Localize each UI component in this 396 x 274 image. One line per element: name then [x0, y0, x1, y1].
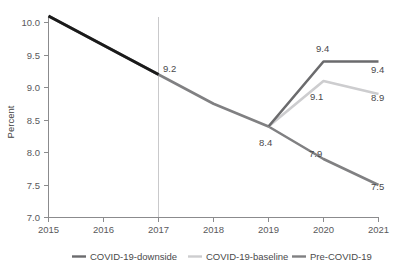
x-tick-label: 2020: [313, 224, 334, 235]
line-chart: 10.0 9.5 9.0 8.5 8.0 7.5 7.0 Percent 201…: [0, 0, 396, 274]
y-tick-label: 9.5: [27, 50, 40, 61]
series-line-covid-19-baseline: [269, 81, 379, 127]
y-axis-ticks: [44, 23, 49, 218]
legend-label: Pre-COVID-19: [310, 251, 372, 262]
y-tick-label: 7.0: [27, 212, 40, 223]
chart-canvas: 10.0 9.5 9.0 8.5 8.0 7.5 7.0 Percent 201…: [0, 0, 396, 274]
legend-label: COVID-19-baseline: [206, 251, 288, 262]
data-labels: 9.2 8.4 9.4 9.4 9.1 8.9 7.9 7.5: [163, 43, 384, 192]
x-tick-label: 2018: [203, 224, 224, 235]
legend-item-covid-19-baseline[interactable]: COVID-19-baseline: [188, 251, 288, 262]
data-label-pre-2020: 7.9: [309, 148, 322, 159]
y-tick-label: 10.0: [22, 17, 41, 28]
y-tick-label: 8.0: [27, 147, 40, 158]
data-label-2019: 8.4: [259, 137, 272, 148]
legend-item-pre-covid-19[interactable]: Pre-COVID-19: [292, 251, 372, 262]
data-label-2017: 9.2: [163, 63, 176, 74]
series-line-history: [49, 16, 159, 75]
y-axis-title: Percent: [5, 105, 16, 138]
legend-label: COVID-19-downside: [90, 251, 177, 262]
y-tick-label: 8.5: [27, 115, 40, 126]
x-axis-ticks: [49, 218, 379, 223]
data-label-downside-2020: 9.4: [316, 43, 329, 54]
x-tick-label: 2017: [148, 224, 169, 235]
data-label-downside-2021: 9.4: [371, 64, 384, 75]
data-label-baseline-2020: 9.1: [310, 91, 323, 102]
x-tick-label: 2019: [258, 224, 279, 235]
data-label-pre-2021: 7.5: [371, 181, 384, 192]
chart-legend: COVID-19-downside COVID-19-baseline Pre-…: [72, 251, 372, 262]
y-tick-label: 9.0: [27, 82, 40, 93]
series-group: [49, 16, 379, 185]
x-axis-tick-labels: 2015 2016 2017 2018 2019 2020 2021: [38, 224, 389, 235]
y-axis-tick-labels: 10.0 9.5 9.0 8.5 8.0 7.5 7.0: [22, 17, 41, 223]
y-tick-label: 7.5: [27, 180, 40, 191]
x-tick-label: 2015: [38, 224, 59, 235]
x-tick-label: 2021: [368, 224, 389, 235]
series-line-covid-19-downside: [269, 62, 379, 127]
data-label-baseline-2021: 8.9: [371, 92, 384, 103]
legend-item-covid-19-downside[interactable]: COVID-19-downside: [72, 251, 177, 262]
x-tick-label: 2016: [93, 224, 114, 235]
